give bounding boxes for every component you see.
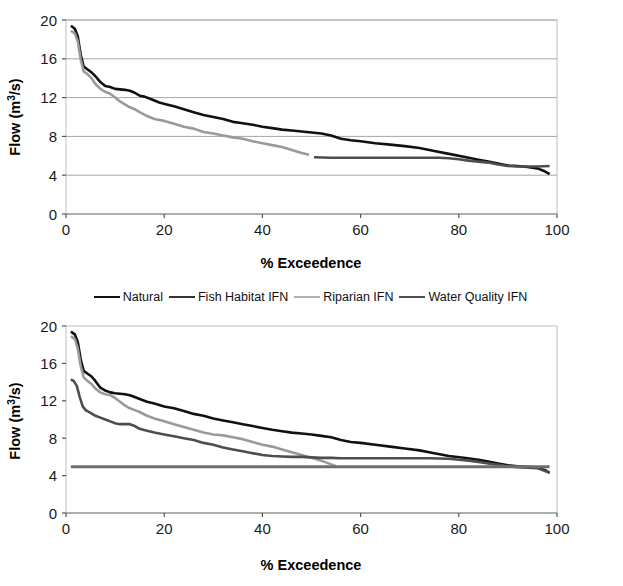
bottom-chart-y-axis-title: Flow (m3/s) (6, 382, 23, 459)
top-chart-x-tick-labels: 020406080100 (62, 221, 570, 238)
line-swatch-icon (169, 296, 195, 298)
bottom-chart-plot-frame (66, 326, 557, 513)
x-axis-title-text: % Exceedence (261, 557, 362, 573)
y-tick-label: 4 (49, 467, 57, 484)
legend-item-natural[interactable]: Natural (94, 290, 165, 304)
x-tick-label: 0 (62, 221, 70, 238)
x-axis-title-text: % Exceedence (261, 255, 362, 271)
x-tick-label: 60 (352, 520, 369, 537)
top-chart-y-tick-labels: 048121620 (40, 12, 57, 223)
y-axis-title-text: Flow (m3/s) (6, 382, 23, 459)
y-tick-label: 8 (49, 430, 57, 447)
y-tick-label: 0 (49, 206, 57, 223)
y-tick-label: 0 (49, 505, 57, 522)
x-tick-label: 40 (254, 221, 271, 238)
y-tick-label: 12 (40, 392, 57, 409)
chart-legend: NaturalFish Habitat IFNRiparian IFNWater… (0, 286, 623, 308)
y-axis-title-tail: /s) (7, 382, 23, 399)
y-tick-label: 16 (40, 355, 57, 372)
bottom-chart-y-tick-labels: 048121620 (40, 318, 57, 522)
y-axis-title-text: Flow (m3/s) (6, 78, 23, 155)
legend-item-fish-habitat-ifn[interactable]: Fish Habitat IFN (165, 290, 290, 304)
legend-item-label: Fish Habitat IFN (198, 290, 290, 304)
x-tick-label: 40 (254, 520, 271, 537)
x-tick-label: 100 (544, 520, 569, 537)
top-chart-x-axis-title: % Exceedence (261, 255, 362, 271)
bottom-chart-x-axis-title: % Exceedence (261, 557, 362, 573)
top-chart-plot-frame (66, 20, 557, 214)
legend-item-label: Riparian IFN (323, 290, 395, 304)
line-swatch-icon (94, 296, 120, 298)
x-tick-label: 20 (156, 520, 173, 537)
y-tick-label: 4 (49, 167, 57, 184)
y-tick-label: 12 (40, 89, 57, 106)
y-axis-title-tail: /s) (7, 78, 23, 95)
top-chart-y-axis-title: Flow (m3/s) (6, 78, 23, 155)
legend-item-label: Water Quality IFN (428, 290, 529, 304)
legend-item-label: Natural (123, 290, 165, 304)
top-chart-svg: 020406080100 048121620 % Exceedence Flow… (0, 0, 623, 278)
dual-flow-duration-chart-figure: 020406080100 048121620 % Exceedence Flow… (0, 0, 623, 586)
x-tick-label: 80 (450, 520, 467, 537)
y-tick-label: 8 (49, 128, 57, 145)
top-chart-panel: 020406080100 048121620 % Exceedence Flow… (0, 0, 623, 278)
x-tick-label: 80 (450, 221, 467, 238)
bottom-chart-x-tick-labels: 020406080100 (62, 520, 570, 537)
y-tick-label: 20 (40, 318, 57, 335)
line-swatch-icon (399, 296, 425, 298)
line-swatch-icon (294, 296, 320, 298)
x-tick-label: 100 (544, 221, 569, 238)
y-tick-label: 16 (40, 50, 57, 67)
y-axis-title-base: Flow (m (7, 101, 23, 156)
plot-area-background (66, 326, 557, 513)
x-tick-label: 20 (156, 221, 173, 238)
x-tick-label: 0 (62, 520, 70, 537)
legend-item-riparian-ifn[interactable]: Riparian IFN (290, 290, 395, 304)
y-tick-label: 20 (40, 12, 57, 29)
bottom-chart-svg: 020406080100 048121620 % Exceedence Flow… (0, 316, 623, 586)
plot-area-background (66, 20, 557, 214)
y-axis-title-base: Flow (m (7, 405, 23, 460)
legend-item-water-quality-ifn[interactable]: Water Quality IFN (395, 290, 529, 304)
x-tick-label: 60 (352, 221, 369, 238)
bottom-chart-panel: 020406080100 048121620 % Exceedence Flow… (0, 316, 623, 586)
